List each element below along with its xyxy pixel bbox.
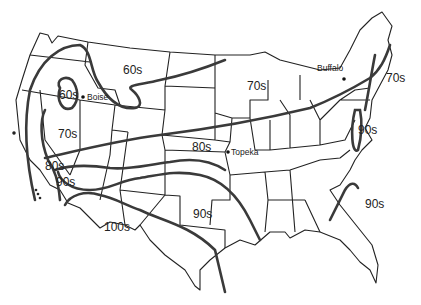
boise-dot <box>81 95 85 99</box>
band-label-60s-boise: 60s <box>59 89 78 101</box>
band-label-90s-southeast: 90s <box>365 198 384 210</box>
us-temperature-map: 60s 60s 70s 70s 70s 80s 80s 90s 90s 90s … <box>0 0 421 305</box>
band-label-90s-south: 90s <box>193 208 212 220</box>
band-label-70s-northeast: 70s <box>386 72 405 84</box>
city-label-topeka: Topeka <box>231 148 258 157</box>
band-label-80s-west: 80s <box>45 160 64 172</box>
band-label-90s-east: 90s <box>358 124 377 136</box>
band-label-70s-midwest: 70s <box>247 80 266 92</box>
buffalo-dot <box>342 77 346 81</box>
band-label-80s-central: 80s <box>192 141 211 153</box>
band-label-60s-north: 60s <box>123 64 142 76</box>
band-label-90s-west: 90s <box>56 176 75 188</box>
isotherm-lines <box>26 45 390 292</box>
city-label-boise: Boise <box>87 93 108 102</box>
band-label-70s-west: 70s <box>58 128 77 140</box>
city-label-buffalo: Buffalo <box>317 64 343 73</box>
band-label-100s-southwest: 100s <box>104 221 130 233</box>
topeka-dot <box>226 150 230 154</box>
